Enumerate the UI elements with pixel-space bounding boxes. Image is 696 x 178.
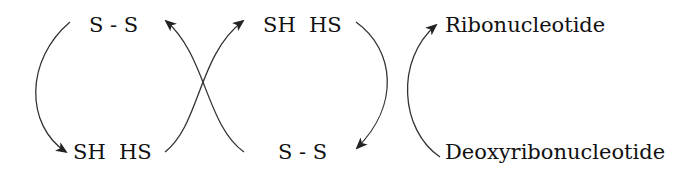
node-disulfide-mid: S - S [278, 142, 327, 163]
node-dithiol-mid: SH HS [263, 15, 342, 36]
arrow-right-descend-left [356, 22, 387, 148]
arrow-mid-rise-left [166, 21, 244, 152]
node-dithiol-left: SH HS [73, 142, 152, 163]
node-deoxyribonucleotide: Deoxyribonucleotide [445, 142, 665, 163]
arrow-mid-rise-right [165, 21, 243, 152]
arrow-right-rise-right [408, 25, 440, 157]
node-ribonucleotide: Ribonucleotide [445, 15, 605, 36]
arrow-left-cycle [36, 22, 70, 152]
node-disulfide-left: S - S [89, 15, 138, 36]
redox-cycle-diagram: S - S SH HS SH HS S - S Ribonucleotide D… [0, 0, 696, 178]
